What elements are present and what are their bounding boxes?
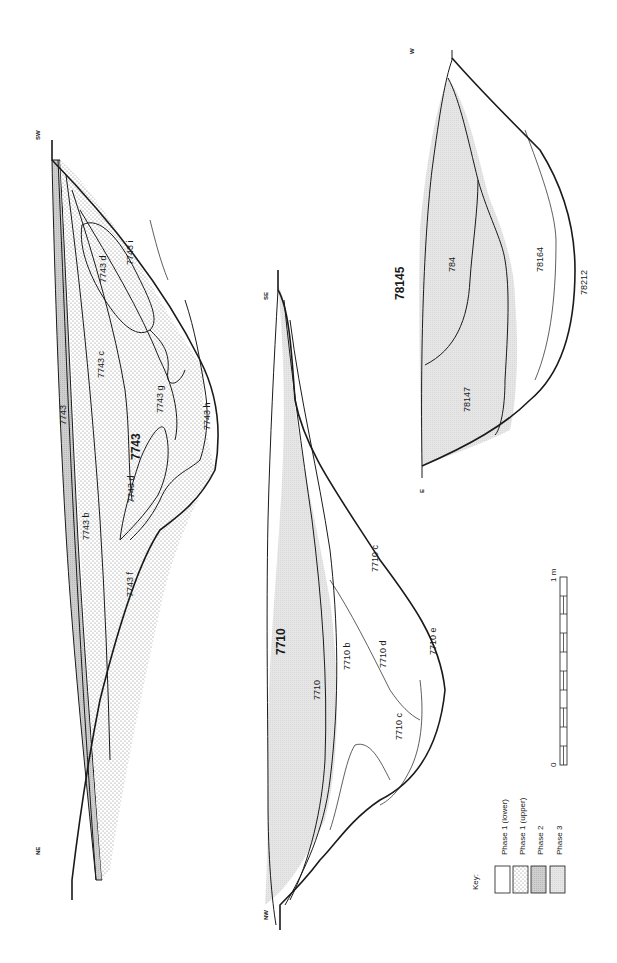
layer-label: 7710 b	[342, 642, 352, 670]
layer-label: 7743 h	[202, 402, 212, 430]
layer-label: 7743	[58, 405, 68, 425]
section-78145: 78145 E W 784 78147 78164 78212	[393, 48, 589, 493]
layer-label: 7743 f	[125, 571, 135, 597]
key-label: Phase 1 (upper)	[518, 797, 527, 855]
layer-label: 7710 c	[394, 712, 404, 740]
layer-label: 784	[447, 257, 457, 272]
end-label-nw: NW	[263, 910, 269, 920]
end-label-w: W	[409, 48, 415, 54]
key-swatch-phase1-lower	[495, 866, 510, 893]
end-label-ne: NE	[35, 847, 41, 855]
layer-label: 7710	[312, 680, 322, 700]
scale-start-label: 0	[549, 762, 558, 767]
section-7743: 7743 NE SW 7743 7743 b 7743 c 7743 d 774…	[35, 130, 218, 900]
scale-bar: 0 1 m	[549, 568, 567, 767]
key-swatch-phase3	[550, 866, 565, 893]
key-label: Phase 3	[555, 825, 564, 855]
layer-label: 7710 c	[370, 544, 380, 572]
section-title-7710: 7710	[274, 628, 288, 655]
end-label-e: E	[419, 489, 425, 493]
layer-label: 7710 e	[428, 627, 438, 655]
key-swatch-phase1-upper	[513, 866, 528, 893]
scale-end-label: 1 m	[549, 568, 558, 582]
layer-label: 7743 i	[125, 240, 135, 265]
layer-label: 7743 c	[96, 350, 106, 378]
layer-label: 78147	[462, 387, 472, 412]
key-title: Key:	[471, 874, 480, 890]
section-title-78145: 78145	[393, 266, 407, 300]
section-7710: 7710 NW SE 7710 7710 b 7710 c 7710 c 771…	[263, 270, 445, 930]
layer-label: 7743 b	[81, 512, 91, 540]
key-label: Phase 1 (lower)	[500, 799, 509, 855]
layer-label: 7743 d	[98, 255, 108, 283]
end-label-sw: SW	[35, 130, 41, 140]
layer-label: 7743 d	[126, 475, 136, 503]
end-label-se: SE	[263, 292, 269, 300]
layer-label: 78212	[579, 270, 589, 295]
layer-label: 78164	[535, 247, 545, 272]
layer-label: 7743 g	[155, 385, 165, 413]
section-title-7743: 7743	[129, 433, 143, 460]
section-drawing-figure: 7743 NE SW 7743 7743 b 7743 c 7743 d 774…	[0, 0, 617, 963]
key-swatch-phase2	[531, 866, 546, 893]
key-label: Phase 2	[536, 825, 545, 855]
layer-label: 7710 d	[378, 640, 388, 668]
layer-7710-phase3	[265, 285, 337, 905]
legend-key: Key: Phase 1 (lower) Phase 1 (upper) Pha…	[471, 797, 565, 893]
